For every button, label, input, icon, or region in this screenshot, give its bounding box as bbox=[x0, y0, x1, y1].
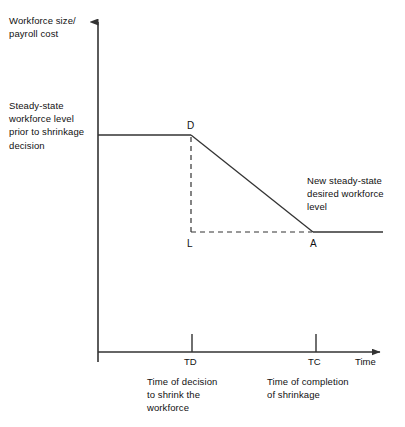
caption-time-of-completion: Time of completion of shrinkage bbox=[267, 375, 387, 401]
new-steady-state-annotation: New steady-state desired workforce level bbox=[307, 174, 405, 214]
x-tick-label-td: TD bbox=[184, 356, 197, 367]
y-axis-title: Workforce size/ payroll cost bbox=[9, 14, 101, 40]
caption-time-of-decision: Time of decision to shrink the workforce bbox=[147, 375, 259, 415]
shrinkage-decline-line bbox=[191, 135, 313, 232]
point-label-l: L bbox=[187, 238, 193, 249]
steady-state-annotation: Steady-state workforce level prior to sh… bbox=[9, 99, 101, 152]
x-tick-label-tc: TC bbox=[308, 356, 321, 367]
point-label-a: A bbox=[310, 238, 317, 249]
x-axis-title: Time bbox=[355, 356, 376, 367]
point-label-d: D bbox=[187, 120, 194, 131]
workforce-shrinkage-figure: Workforce size/ payroll cost Steady-stat… bbox=[0, 0, 405, 427]
